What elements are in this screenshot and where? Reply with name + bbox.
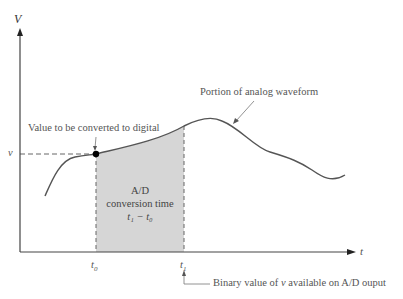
x-axis-label: t: [360, 245, 363, 257]
conversion-time-label: A/D conversion time t₁ − t₀: [96, 184, 184, 223]
binary-prefix: Binary value of: [213, 277, 281, 288]
box-title-line1: A/D: [96, 184, 184, 197]
annotation-value: Value to be converted to digital: [28, 122, 160, 133]
v-label: v: [8, 147, 13, 158]
sample-point: [93, 151, 99, 157]
t1-label: t1: [180, 259, 186, 273]
box-formula: t₁ − t₀: [96, 210, 184, 223]
annotation-waveform: Portion of analog waveform: [200, 86, 318, 97]
t0-sub: 0: [94, 265, 98, 273]
y-axis-label: V: [14, 12, 21, 27]
binary-suffix: available on A/D ouput: [286, 277, 386, 288]
value-arrow-icon: [93, 146, 97, 151]
annotation-binary: Binary value of v available on A/D ouput: [213, 277, 386, 288]
diagram-canvas: [0, 0, 403, 299]
box-title-line2: conversion time: [96, 197, 184, 210]
t0-label: t0: [91, 259, 97, 273]
t1-sub: 1: [183, 265, 187, 273]
x-axis-arrow-icon: [347, 249, 356, 255]
y-axis-arrow-icon: [17, 28, 23, 36]
